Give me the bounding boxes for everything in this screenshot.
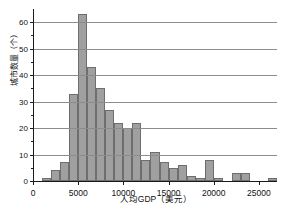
histogram-bar (169, 168, 178, 181)
histogram-bar (69, 94, 78, 181)
gridline (33, 155, 277, 156)
gridline (33, 22, 277, 23)
y-axis-line (33, 9, 34, 182)
histogram-bar (205, 160, 214, 181)
x-axis-line (33, 181, 277, 182)
histogram-bar (241, 173, 250, 181)
histogram-bar (78, 14, 87, 181)
gridline (33, 75, 277, 76)
histogram-bar (160, 162, 169, 181)
histogram-bar (51, 170, 60, 181)
gridline (33, 49, 277, 50)
y-tick-label: 20 (19, 124, 28, 133)
histogram-bar (178, 165, 187, 181)
histogram-bar (105, 110, 114, 181)
y-tick-label: 50 (19, 44, 28, 53)
gridline (33, 102, 277, 103)
y-tick-label: 40 (19, 71, 28, 80)
y-tick-label: 30 (19, 97, 28, 106)
histogram-bar (114, 123, 123, 181)
histogram-bar (150, 152, 159, 181)
plot-area: 0102030405060 0500010000150002000025000 (33, 9, 277, 181)
histogram-bar (60, 162, 69, 181)
histogram-bar (87, 67, 96, 181)
y-tick-label: 60 (19, 18, 28, 27)
histogram-chart: 城市数量（个） 0102030405060 050001000015000200… (0, 0, 284, 212)
histogram-bar (132, 123, 141, 181)
x-axis-label: 人均GDP（美元） (28, 192, 284, 204)
histogram-bar (141, 160, 150, 181)
y-tick-label: 0 (24, 177, 28, 186)
histogram-bar (232, 173, 241, 181)
gridline (33, 128, 277, 129)
y-axis-label: 城市数量（个） (8, 18, 19, 98)
y-tick-label: 10 (19, 150, 28, 159)
